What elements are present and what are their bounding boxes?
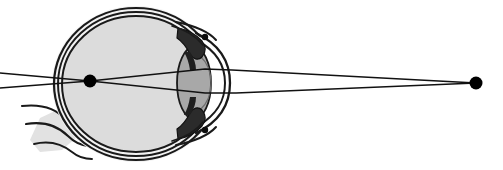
retinal-focal-point bbox=[84, 75, 97, 88]
canal-of-schlemm-superior-icon bbox=[202, 34, 208, 40]
eye-ray-diagram bbox=[0, 0, 503, 170]
diagram-canvas bbox=[0, 0, 503, 170]
distant-point-source bbox=[470, 77, 483, 90]
canal-of-schlemm-inferior-icon bbox=[202, 127, 208, 133]
